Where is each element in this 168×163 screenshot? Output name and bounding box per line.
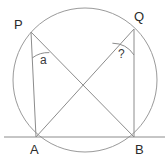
angle-label-unknown: ? [118,48,125,60]
vertex-label-b: B [135,143,144,156]
vertex-label-q: Q [134,10,144,23]
circumscribed-circle [13,8,157,152]
segment-pa [31,32,36,137]
vertex-label-a: A [30,143,39,156]
geometry-figure: P Q A B a ? [0,0,168,163]
angle-label-a: a [40,54,47,66]
vertex-label-p: P [14,18,23,31]
geometry-canvas [0,0,168,163]
segment-qa [36,29,134,137]
